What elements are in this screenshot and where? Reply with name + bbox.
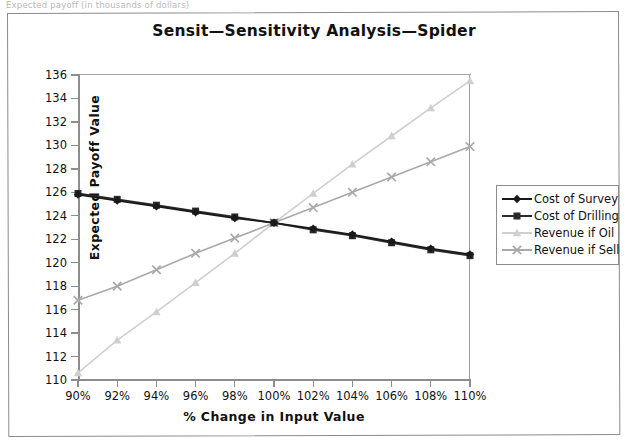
chart-legend: Cost of SurveyCost of DrillingRevenue if… xyxy=(496,185,619,265)
data-point-cross xyxy=(387,173,395,181)
data-point-cross xyxy=(466,142,474,150)
legend-key-cross-icon xyxy=(500,242,534,258)
data-point-cross xyxy=(74,296,82,304)
data-point-cross xyxy=(427,158,435,166)
legend-key-diamond-icon xyxy=(500,191,534,207)
legend-label: Cost of Survey xyxy=(534,192,618,206)
legend-item[interactable]: Revenue if Oil xyxy=(500,224,615,241)
data-point-cross xyxy=(113,282,121,290)
legend-item[interactable]: Revenue if Sell xyxy=(500,241,615,258)
data-point-diamond xyxy=(513,194,521,202)
data-point-cross xyxy=(191,249,199,257)
series-cost-of-survey xyxy=(74,190,474,258)
legend-item[interactable]: Cost of Drilling xyxy=(500,207,615,224)
legend-label: Revenue if Sell xyxy=(534,243,619,257)
legend-label: Revenue if Oil xyxy=(534,226,614,240)
data-point-cross xyxy=(348,188,356,196)
legend-key-square-icon xyxy=(500,208,534,224)
data-point-square xyxy=(514,212,521,219)
data-point-cross xyxy=(309,203,317,211)
legend-label: Cost of Drilling xyxy=(534,209,619,223)
data-point-cross xyxy=(231,234,239,242)
data-point-triangle xyxy=(427,104,435,112)
chart-page: Expected payoff (in thousands of dollars… xyxy=(0,0,628,446)
legend-item[interactable]: Cost of Survey xyxy=(500,190,615,207)
data-point-triangle xyxy=(466,77,474,85)
data-point-cross xyxy=(152,266,160,274)
legend-key-triangle-icon xyxy=(500,225,534,241)
